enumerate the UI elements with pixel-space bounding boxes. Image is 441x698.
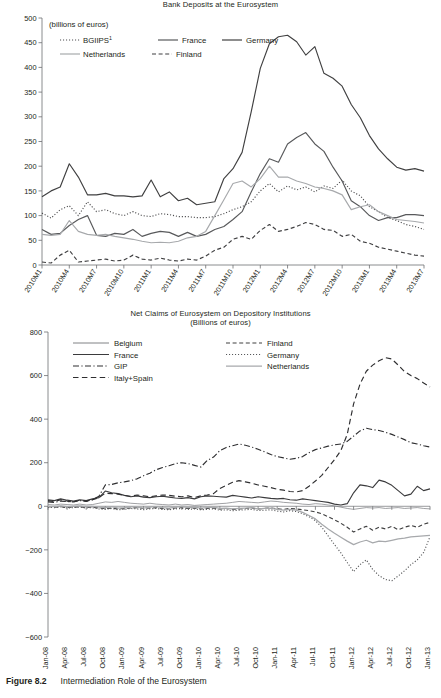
- x-tick-label: Oct-12: [404, 647, 413, 669]
- x-tick-label: 2010M10: [102, 267, 126, 297]
- legend-label-gip: GIP: [114, 362, 127, 371]
- legend-label-netherlands: Netherlands: [267, 362, 309, 371]
- x-tick-label: 2013M7: [404, 267, 425, 294]
- y-tick-label: 50: [28, 236, 36, 245]
- figure-caption-text: Intermediation Role of the Eurosystem: [61, 676, 207, 686]
- x-tick-label: 2012M4: [268, 267, 289, 294]
- x-tick-label: 2012M7: [295, 267, 316, 294]
- legend-label-italy+spain: Italy+Spain: [114, 374, 153, 383]
- x-tick-label: 2011M1: [132, 267, 153, 293]
- x-tick-label: Apr-10: [213, 647, 222, 669]
- y-tick-label: 300: [24, 112, 36, 121]
- y-tick-label: −200: [25, 546, 42, 555]
- axis-units-note: (billions of euros): [49, 20, 109, 29]
- y-tick-label: 500: [24, 14, 36, 23]
- y-tick-label: 800: [30, 328, 42, 337]
- legend-label-belgium: Belgium: [114, 339, 142, 348]
- x-tick-label: 2013M1: [350, 267, 371, 294]
- y-tick-label: 400: [30, 415, 42, 424]
- y-tick-label: 100: [24, 211, 36, 220]
- legend-footnote-marker: 1: [109, 35, 112, 41]
- legend-label-netherlands: Netherlands: [83, 50, 125, 59]
- x-tick-label: 2012M10: [320, 267, 344, 297]
- legend-label-germany: Germany: [246, 36, 278, 45]
- x-tick-label: 2011M10: [211, 267, 234, 297]
- x-tick-label: Jan-10: [194, 647, 203, 669]
- y-tick-label: 200: [30, 458, 42, 467]
- y-tick-label: 200: [24, 162, 36, 171]
- legend-label-germany: Germany: [267, 351, 299, 360]
- chart-bank-deposits: Bank Deposits at the Eurosystem 05010015…: [0, 0, 441, 300]
- series-germany: [48, 507, 430, 581]
- x-tick-label: Apr-09: [137, 647, 146, 669]
- x-tick-label: Jul-09: [156, 647, 165, 667]
- x-tick-label: Jul-12: [385, 647, 394, 667]
- x-tick-label: 2010M7: [77, 267, 98, 294]
- x-tick-label: Apr-08: [60, 647, 69, 669]
- y-tick-label: 150: [24, 187, 36, 196]
- series-bgiips: [42, 180, 424, 229]
- x-tick-label: 2012M1: [241, 267, 262, 294]
- series-netherlands: [48, 506, 430, 545]
- x-tick-label: 2013M4: [377, 267, 398, 294]
- y-tick-label: 250: [24, 137, 36, 146]
- series-italy+spain: [48, 358, 430, 502]
- x-tick-label: Oct-09: [175, 647, 184, 669]
- chart-top-group: 0501001502002503003504004505002010M12010…: [22, 14, 425, 298]
- chart-top-canvas: 0501001502002503003504004505002010M12010…: [0, 0, 441, 300]
- chart-net-claims: Net Claims of Eurosystem on Depository I…: [0, 300, 441, 670]
- series-netherlands: [42, 166, 424, 243]
- x-tick-label: Jul-08: [79, 647, 88, 667]
- y-tick-label: 450: [24, 38, 36, 47]
- x-tick-label: Jan-11: [270, 647, 279, 668]
- y-tick-label: −600: [25, 633, 42, 642]
- x-tick-label: Jul-10: [232, 647, 241, 667]
- figure-page: Bank Deposits at the Eurosystem 05010015…: [0, 0, 441, 698]
- y-tick-label: 600: [30, 371, 42, 380]
- figure-caption: Figure 8.2Intermediation Role of the Eur…: [6, 676, 436, 686]
- x-tick-label: Jan-09: [117, 647, 126, 669]
- x-tick-label: Apr-12: [366, 647, 375, 669]
- x-tick-label: Jul-11: [308, 647, 317, 666]
- x-tick-label: Jan-13: [423, 647, 432, 669]
- x-tick-label: Apr-11: [289, 647, 298, 668]
- series-germany: [42, 35, 424, 204]
- y-tick-label: 0: [38, 502, 42, 511]
- x-tick-label: 2010M1: [22, 267, 43, 294]
- chart-bottom-group: −600−400−2000200400600800Jan-08Apr-08Jul…: [25, 328, 432, 669]
- x-tick-label: Oct-11: [328, 647, 337, 668]
- series-finland: [42, 223, 424, 263]
- y-tick-label: 400: [24, 63, 36, 72]
- y-tick-label: 350: [24, 88, 36, 97]
- figure-number: Figure 8.2: [6, 676, 47, 686]
- x-tick-label: Oct-08: [98, 647, 107, 669]
- legend-label-france: France: [114, 351, 138, 360]
- legend-label-finland: Finland: [176, 50, 202, 59]
- chart-bottom-canvas: −600−400−2000200400600800Jan-08Apr-08Jul…: [0, 300, 441, 670]
- x-tick-label: 2011M7: [186, 267, 207, 293]
- legend-label-bgiips: BGIIPS1: [83, 35, 112, 45]
- x-tick-label: Jan-12: [347, 647, 356, 669]
- legend-label-france: France: [182, 36, 206, 45]
- x-tick-label: 2010M4: [50, 267, 71, 294]
- x-tick-label: Jan-08: [41, 647, 50, 669]
- x-tick-label: 2011M4: [159, 267, 180, 293]
- y-tick-label: −400: [25, 589, 42, 598]
- x-tick-label: Oct-10: [251, 647, 260, 669]
- legend-label-finland: Finland: [267, 339, 293, 348]
